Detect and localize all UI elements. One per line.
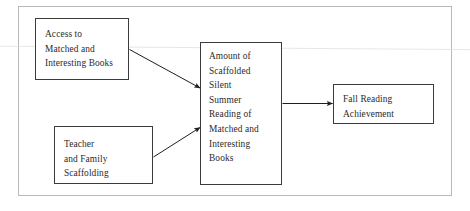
node-access-to-matched-and-interesting-books: Access to Matched and Interesting Books xyxy=(35,18,129,80)
node-teacher-label: Teacher and Family Scaffolding xyxy=(55,127,152,181)
node-access-label: Access to Matched and Interesting Books xyxy=(36,19,128,71)
node-amount-of-scaffolded-silent-summer-reading: Amount of Scaffolded Silent Summer Readi… xyxy=(200,42,282,185)
node-teacher-and-family-scaffolding: Teacher and Family Scaffolding xyxy=(54,126,153,184)
figure-canvas: Access to Matched and Interesting Books … xyxy=(0,0,470,211)
node-fall-label: Fall Reading Achievement xyxy=(334,85,433,121)
node-amount-label: Amount of Scaffolded Silent Summer Readi… xyxy=(201,43,281,166)
node-fall-reading-achievement: Fall Reading Achievement xyxy=(333,84,434,124)
